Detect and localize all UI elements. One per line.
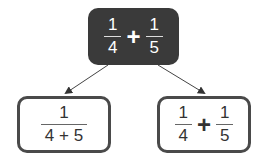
denominator: 4	[175, 127, 192, 145]
denominator: 5	[146, 39, 163, 57]
plus-operator: +	[197, 111, 211, 139]
fraction-bar	[41, 124, 87, 125]
denominator: 5	[216, 127, 233, 145]
denominator: 4 + 5	[41, 127, 87, 145]
numerator: 1	[104, 16, 121, 34]
plus-operator: +	[126, 23, 140, 51]
incorrect-option-node: 1 4 + 5	[17, 96, 111, 153]
fraction-one-fifth: 1 5	[146, 16, 163, 57]
fraction-one-over-sum: 1 4 + 5	[41, 104, 87, 145]
fraction-one-fifth: 1 5	[216, 104, 233, 145]
top-expression-node: 1 4 + 1 5	[88, 8, 179, 65]
fraction-one-fourth: 1 4	[175, 104, 192, 145]
arrow-left	[66, 65, 108, 93]
correct-option-node: 1 4 + 1 5	[157, 96, 251, 153]
numerator: 1	[55, 104, 72, 122]
numerator: 1	[175, 104, 192, 122]
numerator: 1	[216, 104, 233, 122]
fraction-bar	[216, 124, 233, 125]
fraction-bar	[104, 36, 121, 37]
arrow-right	[158, 65, 204, 93]
fraction-bar	[175, 124, 192, 125]
numerator: 1	[146, 16, 163, 34]
fraction-one-fourth: 1 4	[104, 16, 121, 57]
denominator: 4	[104, 39, 121, 57]
fraction-bar	[146, 36, 163, 37]
